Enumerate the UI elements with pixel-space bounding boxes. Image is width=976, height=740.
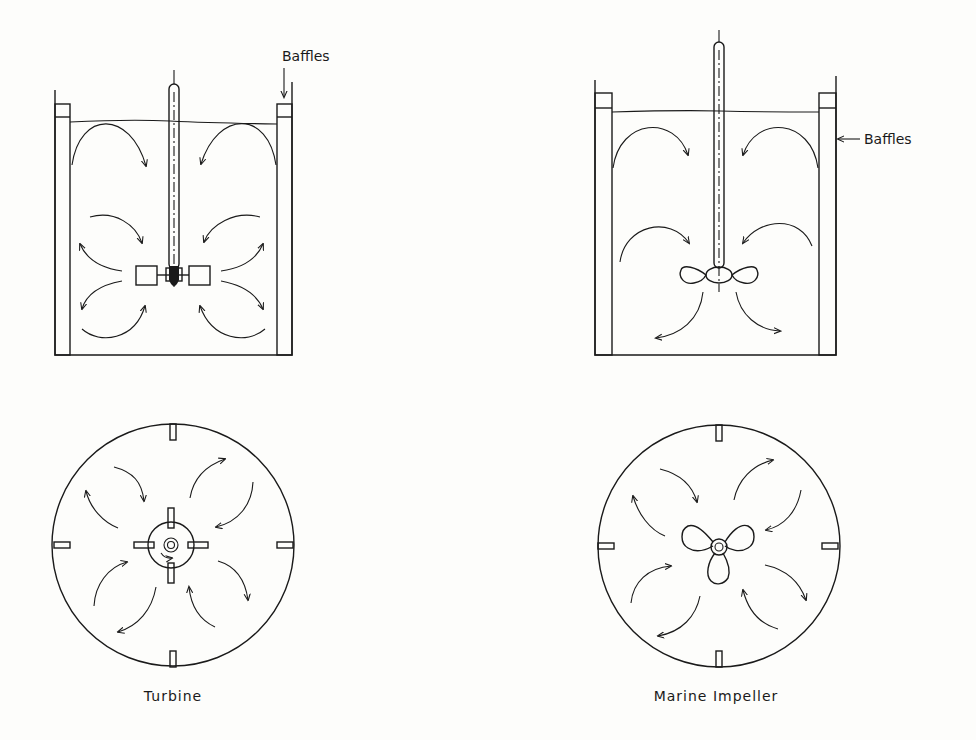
baffle-right <box>819 93 836 355</box>
baffle-left <box>598 543 614 549</box>
baffle-left <box>55 104 70 355</box>
baffle-right <box>277 542 293 548</box>
baffle-right <box>277 104 292 355</box>
tank-outline <box>598 425 840 667</box>
turbine-top-view: Turbine <box>52 424 294 704</box>
baffle-bottom <box>170 651 176 667</box>
caption-marine-impeller: Marine Impeller <box>654 688 779 704</box>
caption-turbine: Turbine <box>143 688 202 704</box>
marine-side-view: Baffles <box>595 30 912 355</box>
baffle-top <box>170 424 176 440</box>
baffle-left <box>54 542 70 548</box>
flow-arrows <box>86 459 253 632</box>
turbine-blade-left <box>136 266 157 285</box>
baffle-right <box>822 543 838 549</box>
turbine-hub <box>169 266 179 286</box>
turbine-side-view: Baffles <box>55 48 330 355</box>
turbine-blade-right <box>189 266 210 285</box>
flow-arrows <box>613 127 818 338</box>
mixing-diagram: Baffles Baffles <box>0 0 976 740</box>
tank-outline <box>52 424 294 666</box>
marine-propeller-top <box>682 525 754 583</box>
baffles-label-turbine: Baffles <box>282 48 330 64</box>
marine-top-view: Marine Impeller <box>598 425 840 704</box>
liquid-surface <box>612 111 819 112</box>
baffle-left <box>595 93 612 355</box>
baffles-label-marine: Baffles <box>864 131 912 147</box>
baffle-bottom <box>716 651 722 667</box>
flow-arrows <box>631 460 806 636</box>
tank-wall <box>595 76 836 355</box>
turbine-impeller <box>134 508 208 583</box>
baffle-top <box>716 425 722 441</box>
